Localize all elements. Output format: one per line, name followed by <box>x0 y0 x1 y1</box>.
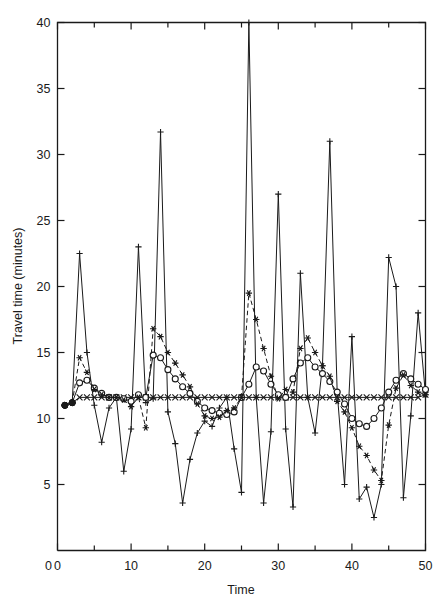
marker-open-circle <box>77 380 83 386</box>
marker-open-circle <box>165 367 171 373</box>
marker-open-circle <box>342 401 348 407</box>
y-tick-label: 10 <box>37 412 51 426</box>
marker-open-circle <box>356 421 362 427</box>
marker-open-circle <box>423 386 429 392</box>
x-axis-label: Time <box>227 583 254 597</box>
y-tick-label: 40 <box>37 16 51 30</box>
marker-open-circle <box>261 368 267 374</box>
marker-open-circle <box>364 423 370 429</box>
marker-open-circle <box>275 392 281 398</box>
marker-open-circle <box>319 371 325 377</box>
marker-open-circle <box>371 416 377 422</box>
y-tick-label: 20 <box>37 280 51 294</box>
marker-open-circle <box>386 389 392 395</box>
x-tick-label: 0 <box>54 559 61 573</box>
marker-filled-circle <box>69 399 75 405</box>
x-tick-label: 50 <box>419 559 433 573</box>
marker-open-circle <box>246 381 252 387</box>
y-axis-label: Travel time (minutes) <box>11 228 25 345</box>
marker-open-circle <box>327 379 333 385</box>
marker-filled-circle <box>62 402 68 408</box>
marker-open-circle <box>415 381 421 387</box>
chart-figure: 01020304050 0510152025303540 Time Travel… <box>0 0 444 610</box>
y-tick-label: 5 <box>44 478 51 492</box>
y-tick-label: 25 <box>37 214 51 228</box>
y-tick-label: 15 <box>37 346 51 360</box>
marker-open-circle <box>408 376 414 382</box>
y-tick-label: 30 <box>37 148 51 162</box>
marker-open-circle <box>253 364 259 370</box>
marker-open-circle <box>305 355 311 361</box>
marker-open-circle <box>172 376 178 382</box>
x-tick-label: 40 <box>345 559 359 573</box>
x-tick-label: 20 <box>198 559 212 573</box>
marker-open-circle <box>378 405 384 411</box>
y-tick-label: 0 <box>45 559 52 573</box>
marker-open-circle <box>349 416 355 422</box>
marker-open-circle <box>209 408 215 414</box>
figure-background <box>0 0 444 610</box>
marker-open-circle <box>312 364 318 370</box>
marker-open-circle <box>158 355 164 361</box>
x-tick-label: 10 <box>124 559 138 573</box>
marker-open-circle <box>202 405 208 411</box>
marker-open-circle <box>180 384 186 390</box>
marker-open-circle <box>393 377 399 383</box>
y-tick-label: 35 <box>37 82 51 96</box>
marker-open-circle <box>231 409 237 415</box>
marker-open-circle <box>283 394 289 400</box>
x-tick-label: 30 <box>271 559 285 573</box>
marker-open-circle <box>128 398 134 404</box>
chart-canvas: 01020304050 0510152025303540 Time Travel… <box>0 0 444 610</box>
marker-open-circle <box>224 412 230 418</box>
